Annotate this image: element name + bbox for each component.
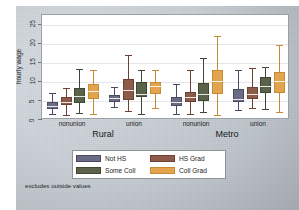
boxplot-box [247, 15, 258, 120]
whisker-upper [217, 36, 218, 70]
whisker-cap-lower [49, 114, 56, 115]
whisker-lower [217, 94, 218, 115]
boxplot-box [74, 15, 85, 120]
y-axis-tick-label: 20 [33, 42, 40, 49]
legend-label-hs-grad: HS Grad [179, 155, 205, 162]
boxplot-box [274, 15, 285, 120]
median-line [136, 94, 147, 95]
whisker-upper [114, 87, 115, 95]
median-line [171, 102, 182, 103]
y-axis-tick-label: 10 [33, 80, 40, 87]
legend-swatch-not-hs [76, 155, 101, 162]
median-line [109, 98, 120, 99]
median-line [61, 102, 72, 103]
whisker-lower [265, 93, 266, 109]
whisker-cap-upper [214, 36, 221, 37]
whisker-cap-upper [138, 70, 145, 71]
x-axis-group-labels: RuralMetro [41, 129, 289, 143]
legend-label-coll-grad: Coll Grad [179, 167, 207, 174]
whisker-upper [203, 58, 204, 83]
whisker-cap-lower [152, 108, 159, 109]
whisker-cap-lower [276, 112, 283, 113]
whisker-cap-upper [49, 93, 56, 94]
boxplot-box [123, 15, 134, 120]
boxplot-box [198, 15, 209, 120]
boxplot-box [260, 15, 271, 120]
x-axis-group-label: Metro [215, 129, 238, 139]
whisker-upper [93, 70, 94, 84]
median-line [185, 97, 196, 98]
boxplot-box [136, 15, 147, 120]
whisker-lower [190, 102, 191, 114]
whisker-upper [66, 88, 67, 98]
whisker-upper [128, 55, 129, 79]
whisker-cap-upper [152, 70, 159, 71]
whisker-cap-lower [76, 113, 83, 114]
whisker-cap-upper [235, 70, 242, 71]
legend-item-not-hs[interactable]: Not HS [76, 155, 148, 162]
whisker-lower [203, 101, 204, 112]
boxplot-box [109, 15, 120, 120]
box-iqr [247, 87, 258, 99]
whisker-cap-lower [235, 110, 242, 111]
whisker-cap-lower [249, 108, 256, 109]
legend-item-coll-grad[interactable]: Coll Grad [150, 167, 222, 174]
boxplot-series-layer [42, 15, 288, 118]
whisker-lower [66, 105, 67, 115]
whisker-cap-lower [63, 115, 70, 116]
whisker-upper [252, 68, 253, 87]
whisker-cap-upper [63, 88, 70, 89]
whisker-upper [79, 69, 80, 87]
legend-item-some-coll[interactable]: Some Coll [76, 167, 148, 174]
plot-panel [41, 14, 289, 119]
median-line [198, 94, 209, 95]
median-line [260, 86, 271, 87]
legend-swatch-hs-grad [150, 155, 175, 162]
x-axis-tick-label: nonunion [59, 120, 86, 127]
whisker-cap-upper [262, 67, 269, 68]
median-line [123, 90, 134, 91]
median-line [88, 91, 99, 92]
whisker-upper [190, 70, 191, 92]
median-line [274, 81, 285, 82]
whisker-cap-upper [276, 45, 283, 46]
x-axis-tick-label: nonunion [183, 120, 210, 127]
legend: Not HS HS Grad Some Coll Coll Grad [72, 150, 226, 179]
x-axis-tick-label: union [126, 120, 142, 127]
whisker-upper [141, 70, 142, 83]
whisker-upper [176, 84, 177, 97]
y-axis-tick-label: 0 [33, 120, 40, 124]
box-iqr [136, 82, 147, 97]
legend-item-hs-grad[interactable]: HS Grad [150, 155, 222, 162]
box-iqr [198, 83, 209, 101]
boxplot-box [233, 15, 244, 120]
whisker-upper [238, 70, 239, 90]
box-iqr [233, 89, 244, 102]
median-line [247, 94, 258, 95]
whisker-upper [265, 67, 266, 78]
whisker-lower [79, 103, 80, 113]
median-line [150, 86, 161, 87]
whisker-cap-lower [214, 115, 221, 116]
median-line [212, 81, 223, 82]
x-axis-tick-label: union [250, 120, 266, 127]
whisker-cap-lower [187, 114, 194, 115]
whisker-cap-upper [76, 69, 83, 70]
boxplot-box [88, 15, 99, 120]
box-iqr [150, 82, 161, 94]
whisker-cap-lower [173, 114, 180, 115]
whisker-lower [279, 93, 280, 113]
x-axis-group-label: Rural [92, 129, 114, 139]
y-axis-title-label: hourly wage [16, 49, 23, 85]
boxplot-box [212, 15, 223, 120]
x-axis-tick-labels: nonunionunionnonunionunion [41, 119, 289, 129]
whisker-cap-lower [138, 114, 145, 115]
whisker-lower [141, 97, 142, 113]
boxplot-box [171, 15, 182, 120]
whisker-lower [176, 106, 177, 114]
whisker-cap-lower [200, 112, 207, 113]
median-line [47, 106, 58, 107]
whisker-cap-upper [173, 84, 180, 85]
whisker-lower [128, 100, 129, 111]
whisker-cap-lower [90, 114, 97, 115]
